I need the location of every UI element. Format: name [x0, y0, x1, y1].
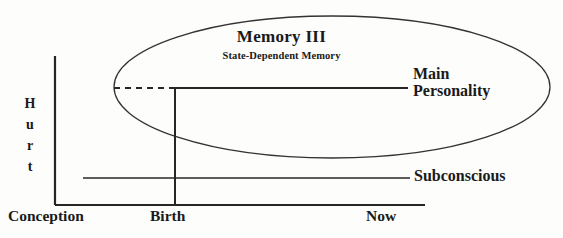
hurt-letter-h: H	[22, 93, 38, 114]
x-axis-label-now: Now	[366, 208, 396, 224]
memory-title: Memory III	[0, 28, 563, 46]
main-personality-label: Main Personality	[413, 66, 490, 100]
hurt-axis-label: H u r t	[22, 93, 38, 177]
x-axis-label-conception: Conception	[8, 208, 84, 224]
memory-subtitle: State-Dependent Memory	[0, 50, 563, 61]
x-axis-label-birth: Birth	[150, 208, 185, 224]
hurt-letter-t: t	[22, 156, 38, 177]
subconscious-label: Subconscious	[414, 168, 506, 185]
hurt-letter-u: u	[22, 114, 38, 135]
hurt-letter-r: r	[22, 135, 38, 156]
memory-iii-diagram: Memory III State-Dependent Memory Main P…	[0, 0, 563, 238]
main-personality-label-line2: Personality	[413, 83, 490, 100]
main-personality-label-line1: Main	[413, 65, 449, 82]
